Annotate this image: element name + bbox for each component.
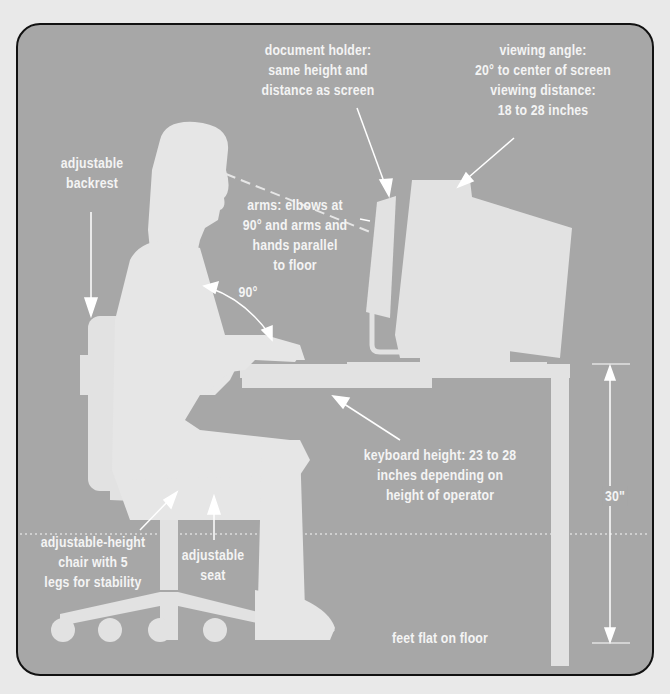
label-adjustable-height-chair: adjustable-height chair with 5 legs for …: [32, 532, 155, 592]
label-desk-height: 30": [603, 486, 628, 506]
label-keyboard-height: keyboard height: 23 to 28 inches dependi…: [358, 445, 522, 505]
label-elbow-angle: 90°: [232, 282, 265, 302]
keyboard: [242, 376, 432, 388]
label-viewing-angle-distance: viewing angle: 20° to center of screen v…: [465, 40, 621, 120]
label-document-holder: document holder: same height and distanc…: [252, 40, 383, 100]
label-adjustable-backrest: adjustable backrest: [51, 153, 133, 193]
label-feet-flat: feet flat on floor: [383, 628, 498, 648]
label-adjustable-seat: adjustable seat: [176, 545, 250, 585]
label-arms: arms: elbows at 90° and arms and hands p…: [238, 195, 353, 275]
